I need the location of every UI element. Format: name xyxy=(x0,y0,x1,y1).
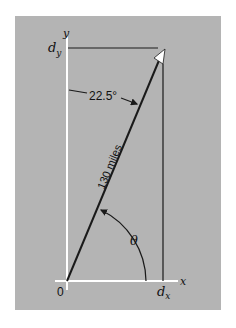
angle-22-5-label: 22.5° xyxy=(89,89,117,103)
y-axis-label: y xyxy=(62,27,70,40)
theta-label: θ xyxy=(130,233,138,248)
background-panel xyxy=(15,16,221,310)
x-axis-label: x xyxy=(180,275,187,288)
vector-component-diagram: 22.5° θ 130 miles y x 0 dy dx xyxy=(0,0,236,328)
origin-label: 0 xyxy=(57,285,64,299)
